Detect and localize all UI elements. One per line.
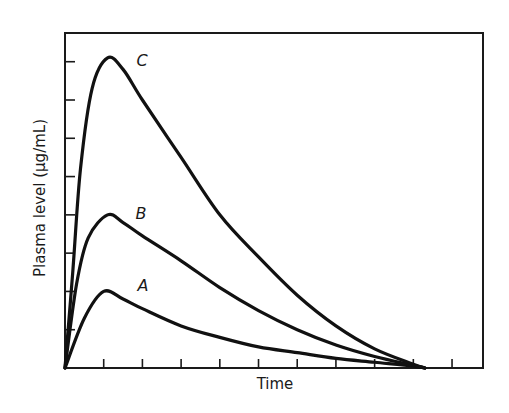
curve-label-c: C [136,51,147,70]
curve-label-b: B [136,204,147,223]
x-axis-label: Time [257,375,294,393]
curve-label-a: A [138,276,149,295]
y-axis-label: Plasma level (μg/mL) [31,119,49,277]
curves [65,57,425,368]
axis-ticks [65,62,452,368]
pharmacokinetic-chart [0,0,509,413]
curve-c [65,57,425,368]
